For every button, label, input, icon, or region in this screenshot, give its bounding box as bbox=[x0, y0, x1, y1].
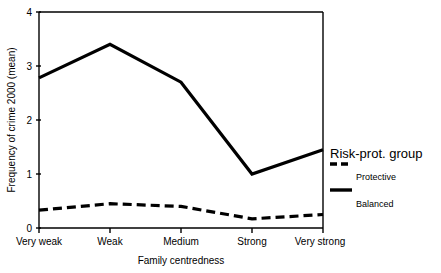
legend-title: Risk-prot. group bbox=[330, 146, 422, 161]
series-line-protective bbox=[39, 44, 323, 174]
y-tick-label-2: 2 bbox=[26, 115, 32, 126]
y-tick-label-3: 3 bbox=[26, 61, 32, 72]
x-tick-labels: Very weak Weak Medium Strong Very strong bbox=[16, 236, 345, 247]
chart-legend: Risk-prot. group Protective Balanced bbox=[330, 146, 422, 209]
y-tick-label-1: 1 bbox=[26, 169, 32, 180]
y-axis-title: Frequency of crime 2000 (mean) bbox=[6, 47, 17, 192]
chart-figure: 4 3 2 1 0 Frequency of crime 2000 (mean)… bbox=[0, 0, 441, 273]
legend-label-protective: Protective bbox=[356, 172, 396, 182]
x-tick-label-strong: Strong bbox=[237, 236, 266, 247]
series-line-balanced bbox=[39, 204, 323, 219]
x-tick-label-very-weak: Very weak bbox=[16, 236, 63, 247]
line-chart: 4 3 2 1 0 Frequency of crime 2000 (mean)… bbox=[0, 0, 441, 273]
legend-label-balanced: Balanced bbox=[356, 199, 394, 209]
plot-frame bbox=[39, 12, 323, 228]
x-tick-marks bbox=[39, 228, 323, 233]
y-tick-label-0: 0 bbox=[26, 223, 32, 234]
x-tick-label-medium: Medium bbox=[163, 236, 199, 247]
x-axis-title: Family centredness bbox=[138, 255, 225, 266]
x-tick-label-very-strong: Very strong bbox=[295, 236, 346, 247]
y-tick-label-4: 4 bbox=[26, 7, 32, 18]
y-tick-labels: 4 3 2 1 0 bbox=[26, 7, 32, 234]
x-tick-label-weak: Weak bbox=[97, 236, 123, 247]
